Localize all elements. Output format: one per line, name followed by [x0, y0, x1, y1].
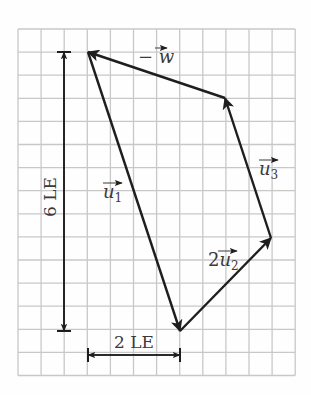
dimension-label-height: 6 LE — [40, 177, 60, 217]
vector-diagram: 6 LE2 LE u12u2u3− w — [0, 0, 311, 395]
dimension-label-width: 2 LE — [114, 332, 154, 352]
vector-label-u3: u3 — [259, 158, 278, 182]
vector-label-neg-w: − w — [138, 46, 175, 67]
labels: u12u2u3− w — [103, 46, 278, 273]
vector-label-u1: u1 — [103, 181, 122, 205]
svg-text:2u2: 2u2 — [208, 249, 239, 273]
dimension-height: 6 LE — [40, 52, 71, 331]
svg-text:u1: u1 — [103, 181, 122, 205]
vector-label-2u2: 2u2 — [208, 249, 239, 273]
svg-text:− w: − w — [138, 46, 175, 67]
svg-text:u3: u3 — [259, 158, 278, 182]
